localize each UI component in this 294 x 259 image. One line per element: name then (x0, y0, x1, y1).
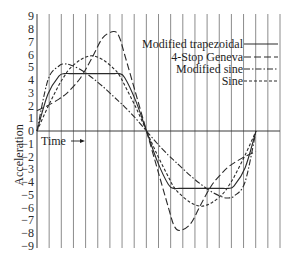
legend-item: Sine (222, 74, 278, 88)
legend-item: Modified trapezoidal (142, 37, 278, 51)
legend-label: Modified trapezoidal (142, 37, 244, 51)
x-axis-label: Time (41, 134, 66, 148)
acceleration-chart: 9876543210−1−2−3−4−5−6−7−8−9 Acceleratio… (0, 0, 294, 259)
legend-label: Sine (222, 74, 243, 88)
y-axis-label: Acceleration (12, 124, 26, 185)
legend: Modified trapezoidal4-Stop GenevaModifie… (142, 37, 278, 88)
time-annotation: Time (41, 134, 85, 148)
y-tick-label: −9 (21, 239, 34, 253)
time-arrow-icon (80, 139, 85, 143)
